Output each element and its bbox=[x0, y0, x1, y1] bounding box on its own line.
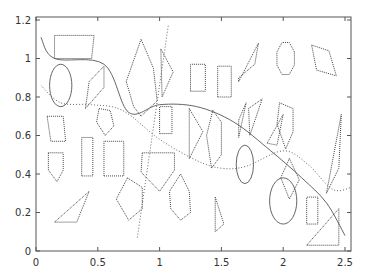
triangle-shape bbox=[326, 114, 341, 193]
parallelogram-shape bbox=[55, 35, 95, 58]
axis-ticks: 00.511.522.500.20.40.60.811.2 bbox=[15, 15, 353, 269]
rectangle-shape bbox=[218, 66, 232, 97]
triangle-shape bbox=[55, 191, 90, 222]
y-tick-label: 0.4 bbox=[15, 169, 31, 180]
hexagon-shape bbox=[207, 110, 222, 168]
plot-frame bbox=[36, 17, 351, 251]
x-tick-label: 0.5 bbox=[90, 257, 106, 268]
hexagon-shape bbox=[126, 39, 157, 116]
octagon-shape bbox=[277, 42, 294, 74]
rectangle-shape bbox=[191, 64, 206, 91]
ellipse-shape bbox=[236, 145, 253, 184]
ellipse-shape bbox=[50, 64, 72, 106]
quadrilateral-shape bbox=[47, 116, 66, 141]
x-tick-label: 2 bbox=[280, 257, 286, 268]
y-tick-label: 0.2 bbox=[15, 207, 31, 218]
x-tick-label: 1 bbox=[156, 257, 162, 268]
triangle-shape bbox=[239, 103, 246, 138]
y-tick-label: 0 bbox=[25, 246, 31, 257]
chart: 00.511.522.500.20.40.60.811.2 bbox=[0, 0, 366, 279]
hexagon-shape bbox=[169, 174, 190, 220]
hexagon-shape bbox=[116, 178, 142, 220]
triangle-shape bbox=[161, 49, 173, 97]
x-tick-label: 1.5 bbox=[213, 257, 229, 268]
triangle-shape bbox=[215, 197, 224, 232]
hexagon-shape bbox=[277, 103, 293, 149]
rectangle-shape bbox=[307, 197, 318, 224]
polygons bbox=[47, 35, 341, 245]
solid-curve bbox=[41, 37, 345, 235]
quadrilateral-shape bbox=[85, 66, 104, 108]
x-tick-label: 0 bbox=[33, 257, 39, 268]
pentagon-shape bbox=[97, 109, 114, 136]
dotted-curve bbox=[41, 85, 351, 190]
rectangle-shape bbox=[82, 137, 93, 176]
triangle-shape bbox=[249, 99, 263, 136]
x-tick-label: 2.5 bbox=[337, 257, 353, 268]
pentagon-shape bbox=[141, 153, 174, 192]
triangle-shape bbox=[267, 114, 283, 145]
y-tick-label: 1.2 bbox=[15, 15, 31, 26]
y-tick-label: 0.6 bbox=[15, 130, 31, 141]
pentagon-shape bbox=[48, 153, 63, 182]
triangle-shape bbox=[189, 109, 203, 159]
rectangle-shape bbox=[160, 107, 172, 134]
y-tick-label: 1 bbox=[25, 53, 31, 64]
dotted-steep-line bbox=[137, 26, 168, 238]
y-tick-label: 0.8 bbox=[15, 92, 31, 103]
rectangle-shape bbox=[104, 141, 124, 176]
diamond-shape bbox=[281, 159, 300, 199]
parallelogram-shape bbox=[239, 43, 259, 82]
parallelogram-shape bbox=[312, 45, 337, 76]
curves bbox=[41, 26, 351, 238]
